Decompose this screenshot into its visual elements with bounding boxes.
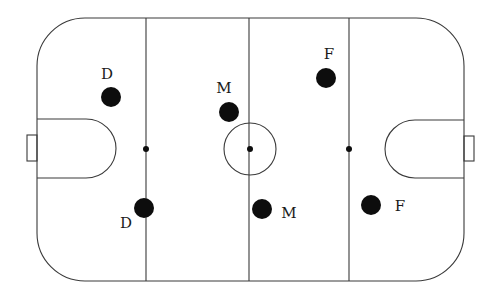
player-f-bottom: F [361, 195, 405, 215]
player-label: F [395, 197, 405, 215]
center-dot [247, 146, 253, 152]
player-marker [361, 195, 381, 215]
player-marker [219, 102, 239, 122]
left-goal [27, 135, 37, 161]
player-m-top: M [216, 79, 239, 122]
right-goal [464, 136, 474, 161]
player-d-bottom: D [120, 198, 154, 232]
player-label: D [101, 65, 113, 83]
player-label: M [281, 204, 296, 222]
right-crease [385, 120, 464, 178]
player-marker [252, 199, 272, 219]
player-label: M [216, 79, 231, 97]
left-crease [37, 119, 116, 178]
rink-diagram: D M F D M F [0, 0, 497, 298]
player-d-top: D [101, 65, 121, 107]
player-f-top: F [316, 45, 336, 88]
right-line-dot [346, 146, 352, 152]
player-marker [101, 87, 121, 107]
player-label: F [324, 45, 334, 63]
player-m-bottom: M [252, 199, 297, 222]
player-marker [134, 198, 154, 218]
player-label: D [120, 214, 132, 232]
player-marker [316, 68, 336, 88]
left-line-dot [143, 146, 149, 152]
